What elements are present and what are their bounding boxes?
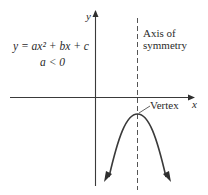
- equation-label: y = ax² + bx + c: [13, 41, 89, 53]
- vertex-leader-line: [139, 106, 150, 113]
- diagram-graphics: [0, 0, 208, 195]
- x-axis-label: x: [192, 99, 197, 110]
- condition-label: a < 0: [40, 57, 65, 69]
- y-axis-label: y: [86, 11, 91, 22]
- axis-of-symmetry-label-line2: symmetry: [143, 40, 187, 51]
- axis-of-symmetry-label-line1: Axis of: [143, 28, 176, 39]
- parabola-diagram: y x y = ax² + bx + c a < 0 Axis of symme…: [0, 0, 208, 195]
- vertex-label: Vertex: [150, 100, 179, 111]
